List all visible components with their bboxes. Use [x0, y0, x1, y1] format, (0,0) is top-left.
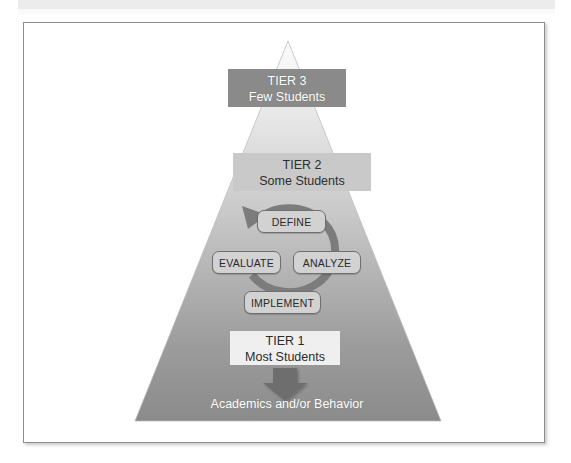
tier-3-subLabel: Few Students [228, 89, 346, 105]
pyramid-diagram: TIER 3 Few Students TIER 2 Some Students… [24, 23, 546, 444]
cycle-step-define: DEFINE [257, 210, 326, 233]
tier-2-label: TIER 2 [233, 157, 371, 173]
pyramid-caption: Academics and/or Behavior [142, 397, 432, 411]
tier-1-subLabel: Most Students [230, 349, 340, 365]
cycle-step-evaluate-label: EVALUATE [219, 257, 274, 269]
scan-artifact-band-soft [18, 9, 555, 14]
cycle-step-analyze: ANALYZE [293, 251, 361, 274]
tier-3-label: TIER 3 [228, 73, 346, 89]
cycle-step-implement-label: IMPLEMENT [251, 297, 314, 309]
cycle-step-define-label: DEFINE [272, 216, 312, 228]
tier-2-band: TIER 2 Some Students [233, 153, 371, 191]
tier-1-band: TIER 1 Most Students [230, 331, 340, 365]
figure-frame: TIER 3 Few Students TIER 2 Some Students… [23, 22, 545, 443]
cycle-step-evaluate: EVALUATE [212, 251, 281, 274]
tier-3-band: TIER 3 Few Students [228, 69, 346, 107]
tier-1-label: TIER 1 [230, 333, 340, 349]
cycle-step-implement: IMPLEMENT [244, 291, 321, 314]
tier-2-subLabel: Some Students [233, 173, 371, 189]
scan-artifact-band [18, 0, 555, 9]
cycle-step-analyze-label: ANALYZE [303, 257, 351, 269]
